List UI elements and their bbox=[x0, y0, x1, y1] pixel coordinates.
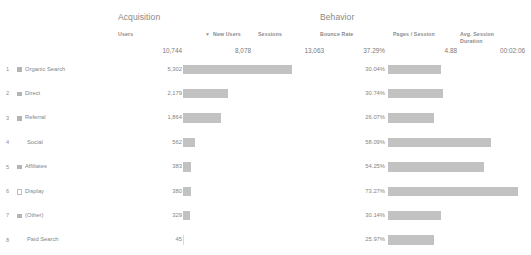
table-row[interactable]: 2Direct2,17930.74% bbox=[0, 86, 531, 110]
row-index: 2 bbox=[6, 90, 16, 96]
table-row[interactable]: 6Display38073.27% bbox=[0, 184, 531, 208]
channel-swatch-icon bbox=[17, 214, 22, 219]
table-row[interactable]: 8Paid Search4525.97% bbox=[0, 233, 531, 255]
channel-swatch-icon bbox=[17, 67, 22, 72]
total-avg-session-duration: 00:02:06 bbox=[500, 47, 525, 54]
channel-name-link[interactable]: Social bbox=[27, 139, 43, 145]
cell-bounce-rate: 54.25% bbox=[365, 163, 385, 169]
column-header-new-users[interactable]: New Users bbox=[213, 31, 241, 38]
bounce-rate-bar bbox=[388, 162, 484, 171]
users-bar bbox=[183, 138, 195, 147]
cell-users: 329 bbox=[172, 212, 182, 218]
totals-row: 10,744 8,078 13,063 37.29% 4.88 00:02:06 bbox=[0, 47, 531, 59]
column-header-avg-session-duration[interactable]: Avg. Session Duration bbox=[460, 31, 500, 44]
table-row[interactable]: 3Referral1,86426.07% bbox=[0, 111, 531, 135]
total-bounce-rate: 37.29% bbox=[363, 47, 385, 54]
column-header-row: Users ▼ New Users Sessions Bounce Rate P… bbox=[0, 29, 531, 45]
channel-name-link[interactable]: Display bbox=[25, 188, 44, 194]
total-new-users: 8,078 bbox=[235, 47, 251, 54]
cell-bounce-rate: 73.27% bbox=[365, 188, 385, 194]
users-bar bbox=[183, 187, 191, 196]
row-index: 8 bbox=[6, 237, 16, 243]
channel-swatch-icon bbox=[17, 116, 22, 121]
acquisition-channels-table: Acquisition Behavior Users ▼ New Users S… bbox=[0, 0, 531, 255]
cell-users: 45 bbox=[176, 236, 182, 242]
bounce-rate-bar bbox=[388, 89, 443, 98]
cell-bounce-rate: 30.04% bbox=[365, 66, 385, 72]
cell-users: 380 bbox=[172, 188, 182, 194]
table-row[interactable]: 5Affiliates38354.25% bbox=[0, 160, 531, 184]
cell-bounce-rate: 30.14% bbox=[365, 212, 385, 218]
group-header-row: Acquisition Behavior bbox=[0, 12, 531, 26]
row-index: 3 bbox=[6, 115, 16, 121]
bounce-rate-bar bbox=[388, 235, 434, 244]
cell-users: 562 bbox=[172, 139, 182, 145]
behavior-group-label: Behavior bbox=[320, 12, 354, 22]
users-bar bbox=[183, 235, 184, 244]
channel-swatch-icon bbox=[17, 189, 22, 194]
channel-name-link[interactable]: Organic Search bbox=[25, 66, 65, 72]
column-header-pages-session[interactable]: Pages / Session bbox=[393, 31, 435, 38]
cell-bounce-rate: 26.07% bbox=[365, 114, 385, 120]
sort-descending-icon[interactable]: ▼ bbox=[205, 31, 210, 37]
row-index: 5 bbox=[6, 164, 16, 170]
channel-swatch-icon bbox=[17, 165, 22, 170]
users-bar bbox=[183, 65, 292, 74]
channel-name-link[interactable]: Paid Search bbox=[27, 236, 59, 242]
channel-name-link[interactable]: Referral bbox=[25, 114, 46, 120]
cell-bounce-rate: 30.74% bbox=[365, 90, 385, 96]
cell-users: 2,179 bbox=[167, 90, 182, 96]
column-header-sessions[interactable]: Sessions bbox=[258, 31, 282, 38]
total-pages-per-session: 4.88 bbox=[445, 47, 457, 54]
bounce-rate-bar bbox=[388, 113, 434, 122]
cell-users: 1,864 bbox=[167, 114, 182, 120]
cell-users: 5,302 bbox=[167, 66, 182, 72]
bounce-rate-bar bbox=[388, 65, 441, 74]
row-index: 1 bbox=[6, 66, 16, 72]
bounce-rate-bar bbox=[388, 187, 518, 196]
users-bar bbox=[183, 211, 190, 220]
cell-bounce-rate: 25.97% bbox=[365, 236, 385, 242]
users-bar bbox=[183, 162, 191, 171]
table-row[interactable]: 7(Other)32930.14% bbox=[0, 208, 531, 232]
channel-swatch-icon bbox=[17, 92, 22, 97]
column-header-users[interactable]: Users bbox=[118, 31, 133, 38]
table-row[interactable]: 1Organic Search5,30230.04% bbox=[0, 62, 531, 86]
users-bar bbox=[183, 113, 221, 122]
column-header-bounce-rate[interactable]: Bounce Rate bbox=[320, 31, 353, 38]
bounce-rate-bar bbox=[388, 211, 441, 220]
table-row[interactable]: 4Social56258.09% bbox=[0, 135, 531, 159]
channel-name-link[interactable]: (Other) bbox=[25, 212, 43, 218]
users-bar bbox=[183, 89, 228, 98]
channel-name-link[interactable]: Direct bbox=[25, 90, 40, 96]
cell-users: 383 bbox=[172, 163, 182, 169]
acquisition-group-label: Acquisition bbox=[118, 12, 160, 22]
row-index: 6 bbox=[6, 188, 16, 194]
data-row-list: 1Organic Search5,30230.04%2Direct2,17930… bbox=[0, 62, 531, 255]
cell-bounce-rate: 58.09% bbox=[365, 139, 385, 145]
row-index: 7 bbox=[6, 212, 16, 218]
channel-name-link[interactable]: Affiliates bbox=[25, 163, 47, 169]
bounce-rate-bar bbox=[388, 138, 491, 147]
total-sessions: 13,063 bbox=[304, 47, 324, 54]
row-index: 4 bbox=[6, 139, 16, 145]
total-users: 10,744 bbox=[162, 47, 182, 54]
